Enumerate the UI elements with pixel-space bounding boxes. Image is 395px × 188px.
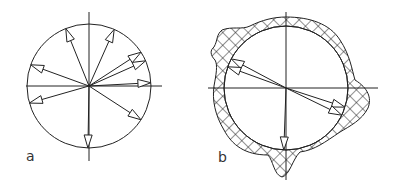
arrow-head-icon [132, 61, 146, 70]
arrow-shaft [89, 86, 130, 113]
panel-a: a [26, 12, 162, 164]
arrow-head-icon [105, 29, 114, 43]
panel-label: a [26, 148, 35, 164]
arrow-head-icon [66, 29, 75, 43]
arrow-shaft [42, 86, 89, 100]
arrow-head-icon [31, 65, 45, 73]
arrow-head-icon [29, 96, 43, 104]
arrow-shaft [43, 69, 89, 86]
panel-label: b [218, 149, 227, 165]
arrow-head-icon [84, 135, 92, 148]
arrow-head-icon [128, 109, 141, 119]
figure: a b [0, 0, 395, 188]
arrow-shaft [71, 41, 89, 86]
arrow-shaft [89, 66, 134, 86]
panel-b: b [208, 12, 378, 180]
